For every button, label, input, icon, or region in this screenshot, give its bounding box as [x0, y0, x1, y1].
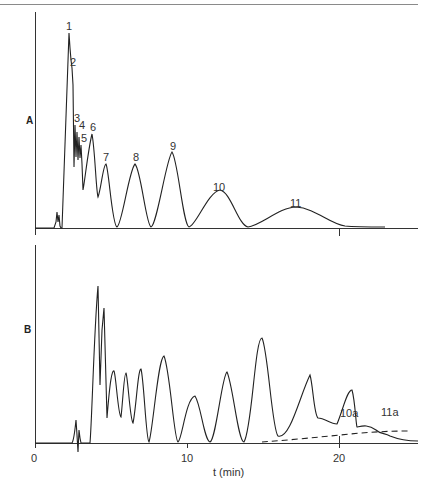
trace-b [35, 286, 418, 452]
x-tick-label-10: 10 [181, 452, 193, 464]
trace-a [35, 33, 385, 228]
x-axis-title: t (min) [213, 466, 244, 478]
panel-a: A 1 2 3 4 5 6 7 8 9 10 11 [26, 12, 418, 236]
peak-label-4: 4 [79, 119, 85, 131]
peak-label-8: 8 [133, 151, 139, 163]
peak-label-10a: 10a [340, 407, 359, 419]
dashed-baseline-b [262, 431, 410, 442]
peak-label-2: 2 [70, 56, 76, 68]
x-tick-label-20: 20 [333, 452, 345, 464]
peak-label-7: 7 [103, 151, 109, 163]
peak-label-5: 5 [81, 132, 87, 144]
peak-label-11: 11 [290, 197, 301, 209]
panel-b: B 10a 11a [24, 245, 418, 452]
panel-label-a: A [26, 115, 33, 126]
peak-label-6: 6 [90, 121, 96, 133]
peak-label-1: 1 [66, 20, 72, 32]
chromatogram-figure: A 1 2 3 4 5 6 7 8 9 10 11 B 10a 11a 0 10… [0, 0, 440, 492]
panel-label-b: B [24, 324, 31, 335]
peak-label-11a: 11a [381, 406, 399, 418]
x-tick-label-0: 0 [31, 452, 37, 464]
peak-label-9: 9 [170, 140, 176, 152]
peak-label-10: 10 [213, 181, 225, 193]
